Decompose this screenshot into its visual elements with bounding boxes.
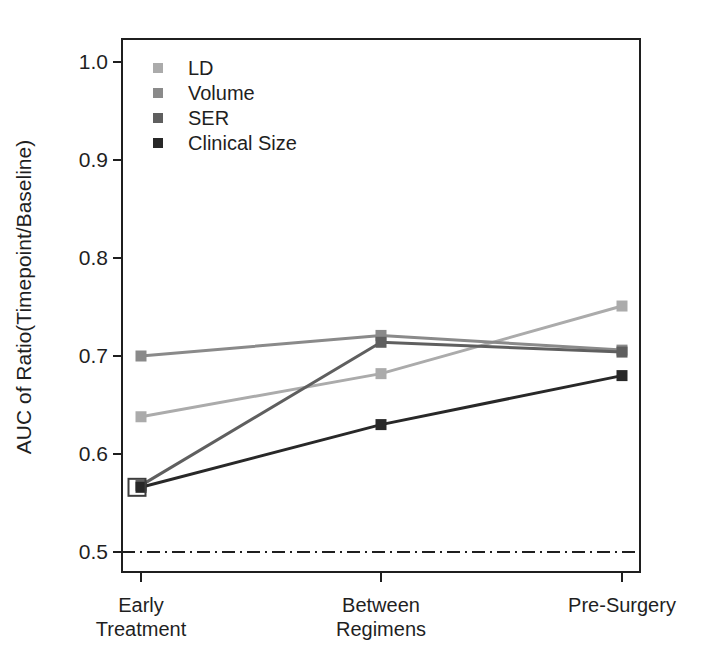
x-category-label: Pre-Surgery: [568, 594, 676, 616]
y-tick-label: 1.0: [79, 50, 108, 73]
series-line-clinical-size: [141, 376, 622, 488]
data-point-ld: [617, 301, 628, 312]
y-tick-label: 0.9: [79, 148, 108, 171]
data-point-volume: [136, 351, 147, 362]
legend-label-clinical-size: Clinical Size: [188, 132, 297, 154]
legend-swatch-ld: [153, 63, 163, 73]
data-point-clinical-size: [376, 419, 387, 430]
figure-canvas: 1.00.90.80.70.60.5EarlyTreatmentBetweenR…: [0, 0, 716, 667]
legend-swatch-volume: [153, 88, 163, 98]
x-category-label: Between: [342, 594, 420, 616]
data-point-ld: [136, 411, 147, 422]
series-line-ld: [141, 306, 622, 417]
x-category-label: Treatment: [96, 618, 187, 640]
legend-label-ser: SER: [188, 107, 229, 129]
data-point-ser: [617, 347, 628, 358]
y-axis-label: AUC of Ratio(Timepoint/Baseline): [12, 140, 35, 454]
y-tick-label: 0.6: [79, 442, 108, 465]
legend-swatch-clinical-size: [153, 138, 163, 148]
legend-label-volume: Volume: [188, 82, 255, 104]
y-tick-label: 0.5: [79, 540, 108, 563]
series-line-ser: [141, 342, 622, 485]
y-tick-label: 0.8: [79, 246, 108, 269]
data-point-clinical-size: [617, 370, 628, 381]
line-chart: 1.00.90.80.70.60.5EarlyTreatmentBetweenR…: [0, 0, 716, 667]
legend-swatch-ser: [153, 113, 163, 123]
x-category-label: Regimens: [336, 618, 426, 640]
data-point-ser: [376, 337, 387, 348]
y-tick-label: 0.7: [79, 344, 108, 367]
legend-label-ld: LD: [188, 57, 214, 79]
data-point-ld: [376, 368, 387, 379]
x-category-label: Early: [118, 594, 164, 616]
